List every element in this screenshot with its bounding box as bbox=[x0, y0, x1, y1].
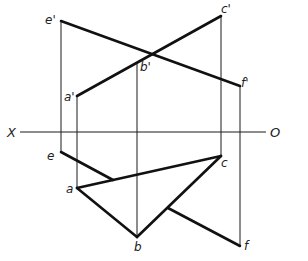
projection-diagram: X O e' c' b' a' f' e a b c f bbox=[0, 0, 308, 261]
segment-b-c bbox=[137, 156, 221, 237]
segment-e-prime-f-prime bbox=[61, 21, 240, 86]
label-e: e bbox=[47, 149, 54, 163]
segment-e-f-visible-2 bbox=[168, 208, 240, 246]
label-a-prime: a' bbox=[64, 90, 75, 104]
label-f-prime: f' bbox=[241, 76, 249, 90]
segment-a-prime-c-prime bbox=[77, 16, 221, 96]
label-c: c bbox=[221, 156, 228, 170]
label-b: b bbox=[134, 240, 142, 254]
label-b-prime: b' bbox=[140, 60, 151, 74]
label-e-prime: e' bbox=[45, 13, 56, 27]
segment-e-f-visible-1 bbox=[61, 152, 113, 180]
label-a: a bbox=[66, 182, 73, 196]
label-c-prime: c' bbox=[221, 2, 231, 16]
segment-a-b bbox=[77, 188, 137, 237]
axis-label-o: O bbox=[270, 125, 280, 140]
label-f: f bbox=[244, 239, 250, 253]
axis-label-x: X bbox=[6, 125, 17, 140]
